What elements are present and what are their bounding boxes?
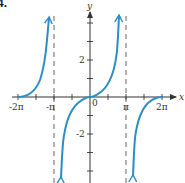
- y-tick-label-2: 2: [79, 55, 85, 65]
- x-tick-label-0: 0: [92, 98, 98, 108]
- y-tick-label-neg-2: -2: [76, 129, 85, 139]
- axis-labels: y x -2π -π 0 π 2π 2 -2: [9, 1, 184, 139]
- x-tick-label-neg-2pi: -2π: [9, 102, 24, 112]
- x-tick-label-2pi: 2π: [156, 102, 168, 112]
- y-axis-label: y: [86, 1, 93, 11]
- x-tick-label-neg-pi: -π: [46, 102, 55, 112]
- x-axis-label: x: [179, 92, 184, 102]
- tangent-graph: y x -2π -π 0 π 2π 2 -2: [0, 0, 185, 183]
- branch-left: [18, 18, 49, 97]
- x-tick-label-pi: π: [123, 102, 129, 112]
